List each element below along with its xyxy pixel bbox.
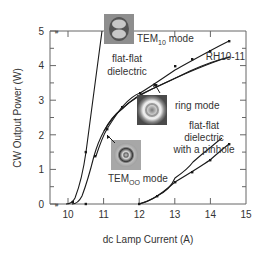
- y-tick-labels: 0 1 2 3 4 5: [38, 26, 44, 210]
- svg-text:13: 13: [169, 209, 181, 220]
- x-tick-labels: 10 11 12 13 14 15: [62, 209, 252, 220]
- ring-mode-image: [137, 95, 167, 125]
- curve-flat-flat-dielectric: [66, 31, 102, 204]
- tem10-mode-image: [104, 14, 134, 44]
- x-axis-title: dc Lamp Current (A): [103, 234, 194, 245]
- label-pinhole-l3: with a pinhole: [172, 144, 235, 155]
- y-axis-title: CW Output Power (W): [12, 68, 23, 167]
- svg-text:15: 15: [240, 209, 252, 220]
- label-tem00-mode: TEMOO mode: [108, 173, 168, 186]
- svg-text:12: 12: [134, 209, 146, 220]
- arrow-head: [107, 135, 110, 139]
- svg-text:1: 1: [38, 164, 44, 175]
- label-flat-flat-l1: flat-flat: [112, 53, 142, 64]
- power-vs-current-chart: # # 0 1 2 3 4 5 10 11 12 13 14 15 dc Lam…: [0, 0, 264, 256]
- svg-text:11: 11: [98, 209, 109, 220]
- svg-text:2: 2: [38, 130, 44, 141]
- tem00-mode-image: [111, 140, 141, 170]
- svg-text:4: 4: [38, 60, 44, 71]
- svg-text:0: 0: [38, 199, 44, 210]
- svg-text:10: 10: [62, 209, 74, 220]
- svg-text:3: 3: [38, 95, 44, 106]
- label-tem10-mode: TEM10 mode: [137, 33, 194, 46]
- label-ring-mode: ring mode: [175, 100, 220, 111]
- origin-marker: #: [55, 202, 59, 208]
- top-marker: #: [55, 29, 59, 35]
- svg-text:14: 14: [205, 209, 217, 220]
- label-flat-flat-l2: dielectric: [107, 66, 146, 77]
- label-rh10-11: RH10-11: [206, 51, 246, 62]
- label-pinhole-l1: flat-flat: [189, 120, 219, 131]
- label-pinhole-l2: dielectric: [184, 132, 223, 143]
- svg-text:5: 5: [38, 26, 44, 37]
